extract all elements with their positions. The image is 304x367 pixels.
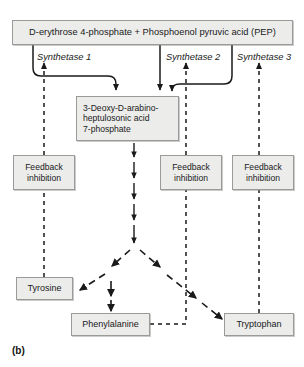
node-feedback-inhibition-2-box: Feedback inhibition (160, 155, 222, 190)
node-tyrosine-box: Tyrosine (16, 277, 73, 300)
node-feedback-inhibition-1-label: Feedback inhibition (25, 162, 63, 182)
node-tryptophan-box: Tryptophan (224, 313, 294, 336)
node-dahp-box: 3-Deoxy-D-arabino- heptulosonic acid 7-p… (76, 96, 179, 141)
node-feedback-inhibition-3-label: Feedback inhibition (244, 162, 282, 182)
enzyme-label-synthetase-1: Synthetase 1 (37, 52, 91, 62)
node-feedback-inhibition-1-box: Feedback inhibition (13, 155, 75, 190)
pathway-diagram-figure: D-erythrose 4-phosphate + Phosphoenol py… (0, 0, 304, 367)
node-tryptophan-label: Tryptophan (236, 319, 281, 330)
branch-to-tyrosine (80, 250, 130, 290)
node-dahp-label: 3-Deoxy-D-arabino- heptulosonic acid 7-p… (83, 103, 158, 133)
node-phenylalanine-box: Phenylalanine (71, 313, 150, 336)
node-tyrosine-label: Tyrosine (27, 283, 61, 294)
enzyme-label-synthetase-3: Synthetase 3 (237, 52, 291, 62)
node-feedback-inhibition-3-box: Feedback inhibition (232, 155, 294, 190)
node-substrate-label: D-erythrose 4-phosphate + Phosphoenol py… (29, 27, 276, 38)
branch-to-tryptophan (140, 250, 222, 319)
figure-panel-label: (b) (12, 345, 25, 356)
node-substrate-box: D-erythrose 4-phosphate + Phosphoenol py… (12, 20, 293, 45)
node-phenylalanine-label: Phenylalanine (82, 319, 139, 330)
node-feedback-inhibition-2-label: Feedback inhibition (172, 162, 210, 182)
enzyme-label-synthetase-2: Synthetase 2 (166, 52, 220, 62)
